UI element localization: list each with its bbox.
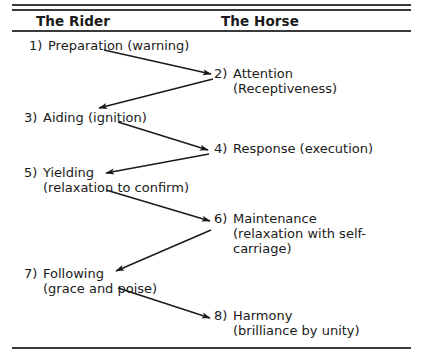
- step-2-line-1: Attention: [233, 66, 337, 81]
- step-7: 7)Following(grace and poise): [24, 266, 157, 296]
- arrow-3-to-4: [118, 122, 208, 150]
- step-3-number: 3): [24, 110, 43, 125]
- step-4-line-1: Response (execution): [233, 141, 373, 156]
- step-8: 8)Harmony(brilliance by unity): [214, 308, 360, 338]
- step-5: 5)Yielding(relaxation to confirm): [24, 165, 189, 195]
- step-2-number: 2): [214, 66, 233, 81]
- step-4-number: 4): [214, 141, 233, 156]
- top-rule-outer: [12, 4, 411, 6]
- bottom-rule: [12, 347, 411, 349]
- step-5-line-2: (relaxation to confirm): [43, 180, 189, 195]
- step-2: 2)Attention(Receptiveness): [214, 66, 337, 96]
- step-1: 1)Preparation (warning): [29, 38, 189, 53]
- step-3-line-1: Aiding (ignition): [43, 110, 147, 125]
- top-rule-inner: [12, 9, 411, 11]
- step-6: 6)Maintenance(relaxation with self-carri…: [214, 211, 366, 256]
- arrow-1-to-2: [104, 50, 211, 74]
- column-header-rider: The Rider: [36, 13, 110, 29]
- step-7-line-2: (grace and poise): [43, 281, 157, 296]
- step-8-line-1: Harmony: [233, 308, 360, 323]
- step-5-line-1: Yielding: [43, 165, 189, 180]
- arrow-2-to-3: [99, 79, 213, 108]
- step-7-number: 7): [24, 266, 43, 281]
- step-4: 4)Response (execution): [214, 141, 373, 156]
- step-8-line-2: (brilliance by unity): [233, 323, 360, 338]
- step-2-line-2: (Receptiveness): [233, 81, 337, 96]
- step-6-number: 6): [214, 211, 233, 226]
- step-1-number: 1): [29, 38, 48, 53]
- column-header-horse: The Horse: [221, 13, 299, 29]
- step-5-number: 5): [24, 165, 43, 180]
- step-6-line-1: Maintenance: [233, 211, 366, 226]
- step-7-line-1: Following: [43, 266, 157, 281]
- step-3: 3)Aiding (ignition): [24, 110, 147, 125]
- header-bottom-rule: [12, 30, 411, 32]
- rider-horse-diagram: The Rider The Horse 1)Preparation (warni…: [0, 0, 423, 362]
- step-6-line-3: carriage): [233, 241, 366, 256]
- step-8-number: 8): [214, 308, 233, 323]
- arrow-6-to-7: [116, 230, 211, 271]
- step-6-line-2: (relaxation with self-: [233, 226, 366, 241]
- step-1-line-1: Preparation (warning): [48, 38, 189, 53]
